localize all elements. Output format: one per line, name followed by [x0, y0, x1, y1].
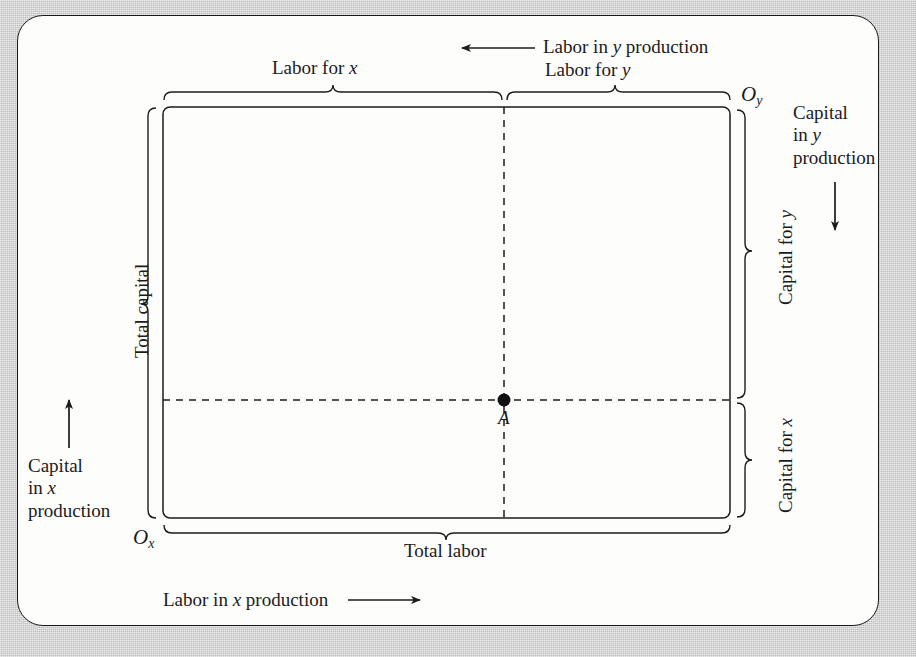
- label-total-capital-text: Total capital: [131, 264, 152, 358]
- label-total-labor: Total labor: [404, 540, 487, 562]
- label-total-capital: Total capital: [131, 264, 153, 358]
- brace-labor-for-y: [507, 85, 730, 100]
- label-total-labor-text: Total labor: [404, 540, 487, 561]
- label-capital-in-y-line3: production: [793, 147, 875, 169]
- label-labor-in-x-production-text: Labor in x production: [163, 589, 328, 610]
- label-labor-for-y-text: Labor for y: [545, 59, 630, 80]
- label-labor-in-y-production-text: Labor in y production: [543, 36, 708, 57]
- label-capital-in-x-line2: in x: [28, 477, 110, 499]
- label-capital-for-x: Capital for x: [775, 418, 797, 513]
- brace-capital-for-x: [737, 403, 752, 517]
- label-capital-for-x-text: Capital for x: [775, 418, 796, 513]
- label-origin-ox-subscript: x: [148, 536, 154, 551]
- label-capital-in-x-line1: Capital: [28, 455, 110, 477]
- label-origin-oy-subscript: y: [756, 93, 762, 108]
- label-origin-oy-letter: O: [741, 82, 756, 106]
- brace-capital-for-y: [737, 110, 752, 398]
- label-labor-for-x: Labor for x: [272, 57, 357, 79]
- label-origin-ox-letter: O: [133, 525, 148, 549]
- label-origin-oy: Oy: [741, 82, 762, 110]
- label-capital-for-y-text: Capital for y: [775, 210, 796, 305]
- label-capital-in-x-line3: production: [28, 500, 110, 522]
- label-origin-ox: Ox: [133, 525, 154, 553]
- label-labor-in-x-production: Labor in x production: [163, 589, 328, 611]
- label-capital-in-y-production: Capital in y production: [793, 102, 875, 169]
- label-point-a-text: A: [498, 407, 510, 428]
- label-capital-for-y: Capital for y: [775, 210, 797, 305]
- brace-labor-for-x: [164, 85, 502, 100]
- label-labor-in-y-production: Labor in y production: [543, 36, 708, 58]
- label-point-a: A: [498, 407, 510, 429]
- label-capital-in-y-line2: in y: [793, 124, 875, 146]
- brace-total-labor: [164, 525, 730, 540]
- point-a-marker[interactable]: [498, 394, 511, 407]
- label-labor-for-x-text: Labor for x: [272, 57, 357, 78]
- box-rectangle: [163, 107, 730, 518]
- label-capital-in-x-production: Capital in x production: [28, 455, 110, 522]
- label-labor-for-y: Labor for y: [545, 59, 630, 81]
- label-capital-in-y-line1: Capital: [793, 102, 875, 124]
